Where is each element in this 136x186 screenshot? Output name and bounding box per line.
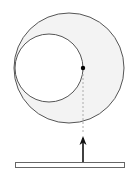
- point-marker: [81, 66, 85, 70]
- base-bar: [16, 163, 125, 168]
- up-arrow-icon: [80, 136, 87, 162]
- tangent-circles-diagram: [0, 0, 136, 186]
- crescent-region: [14, 13, 124, 123]
